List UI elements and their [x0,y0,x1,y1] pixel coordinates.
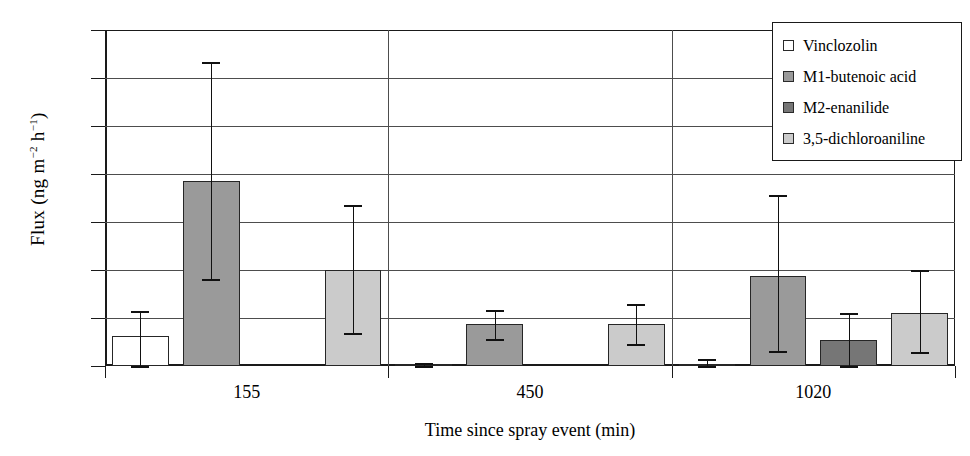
error-bar-cap-upper [131,311,149,313]
error-bar-cap-upper [627,304,645,306]
legend-item: M1-butenoic acid [783,61,961,92]
error-bar [140,311,141,366]
legend-item-label: M1-butenoic acid [803,68,916,86]
y-axis-tick [91,318,105,319]
legend-item-label: 3,5-dichloroaniline [803,130,925,148]
error-bar [920,270,921,352]
error-bar-cap-lower [131,366,149,368]
y-axis-tick [91,126,105,127]
error-bar-cap-lower [769,351,787,353]
y-axis-tick [91,222,105,223]
legend-item: M2-enanilide [783,92,961,123]
x-group-separator [672,30,673,366]
x-axis-group-label: 1020 [672,382,955,403]
error-bar-cap-upper [840,313,858,315]
x-group-separator [388,30,389,366]
error-bar-cap-upper [911,270,929,272]
error-bar-cap-lower [698,366,716,368]
error-bar [849,313,850,366]
x-axis-tick [105,366,106,378]
gridline [105,174,955,175]
legend-swatch-icon [783,71,794,82]
x-axis-tick [388,366,389,378]
legend-item: 3,5-dichloroaniline [783,123,961,154]
error-bar-cap-upper [344,205,362,207]
error-bar [353,205,354,334]
error-bar-cap-lower [486,339,504,341]
legend-item: Vinclozolin [783,30,961,61]
y-axis-tick [91,366,105,367]
error-bar-cap-lower [415,366,433,368]
error-bar-cap-lower [344,333,362,335]
y-axis-tick [91,78,105,79]
x-axis-group-label: 155 [105,382,388,403]
legend-swatch-icon [783,102,794,113]
error-bar [778,195,779,351]
y-axis-title: Flux (ng m−2 h−1) [27,49,49,309]
error-bar-cap-lower [627,344,645,346]
legend-swatch-icon [783,40,794,51]
error-bar [636,304,637,344]
error-bar-cap-lower [202,279,220,281]
error-bar [211,62,212,279]
x-axis-tick [955,366,956,378]
error-bar-cap-upper [486,310,504,312]
x-axis-group-label: 450 [388,382,671,403]
error-bar [495,310,496,339]
y-axis-tick [91,270,105,271]
legend: VinclozolinM1-butenoic acidM2-enanilide3… [772,22,962,161]
legend-item-label: Vinclozolin [803,37,878,55]
error-bar-cap-upper [698,359,716,361]
x-axis-title: Time since spray event (min) [105,420,955,441]
error-bar-cap-lower [911,352,929,354]
figure: Flux (ng m−2 h−1) Time since spray event… [0,0,970,456]
legend-item-label: M2-enanilide [803,99,889,117]
y-axis-tick [91,174,105,175]
error-bar-cap-upper [415,363,433,365]
error-bar-cap-lower [840,366,858,368]
y-axis-tick [91,30,105,31]
error-bar-cap-upper [769,195,787,197]
legend-swatch-icon [783,133,794,144]
y-axis-title-text: Flux (ng m−2 h−1) [27,112,48,246]
x-axis-tick [672,366,673,378]
error-bar-cap-upper [202,62,220,64]
